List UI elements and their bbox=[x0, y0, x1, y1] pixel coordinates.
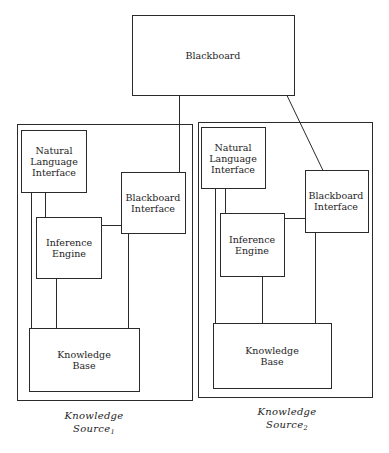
blackboard-to-source2-connector bbox=[287, 96, 323, 171]
caption-line2: Source2 bbox=[257, 418, 316, 435]
caption-subscript: 2 bbox=[303, 424, 307, 432]
label-line: Natural bbox=[209, 142, 257, 153]
label-line: Interface bbox=[30, 167, 78, 178]
caption-subscript: 1 bbox=[110, 428, 114, 436]
source2-inference-engine-label: Inference Engine bbox=[229, 234, 275, 256]
caption-line1: Knowledge bbox=[257, 405, 316, 418]
label-line: Base bbox=[57, 360, 111, 371]
source2-bb-interface-label: Blackboard Interface bbox=[309, 190, 364, 212]
source1-caption: Knowledge Source1 bbox=[64, 409, 123, 439]
caption-text: Source bbox=[266, 419, 303, 430]
label-line: Engine bbox=[46, 248, 92, 259]
caption-line2: Source1 bbox=[64, 422, 123, 439]
label-line: Engine bbox=[229, 245, 275, 256]
source1-knowledge-base-label: Knowledge Base bbox=[57, 349, 111, 371]
source2-caption: Knowledge Source2 bbox=[257, 405, 316, 435]
label-line: Blackboard bbox=[126, 192, 181, 203]
source1-inference-engine-label: Inference Engine bbox=[46, 237, 92, 259]
label-line: Interface bbox=[209, 164, 257, 175]
caption-line1: Knowledge bbox=[64, 409, 123, 422]
label-line: Inference bbox=[46, 237, 92, 248]
label-line: Knowledge bbox=[245, 345, 299, 356]
source2-nl-interface-label: Natural Language Interface bbox=[209, 142, 257, 175]
blackboard-label: Blackboard bbox=[186, 50, 241, 61]
label-line: Base bbox=[245, 356, 299, 367]
label-line: Natural bbox=[30, 145, 78, 156]
label-line: Blackboard bbox=[309, 190, 364, 201]
label-line: Interface bbox=[126, 203, 181, 214]
label-line: Inference bbox=[229, 234, 275, 245]
label-line: Knowledge bbox=[57, 349, 111, 360]
label-line: Language bbox=[30, 156, 78, 167]
source2-knowledge-base-label: Knowledge Base bbox=[245, 345, 299, 367]
label-line: Language bbox=[209, 153, 257, 164]
source1-bb-interface-label: Blackboard Interface bbox=[126, 192, 181, 214]
source1-nl-interface-label: Natural Language Interface bbox=[30, 145, 78, 178]
diagram-canvas bbox=[0, 0, 389, 453]
caption-text: Source bbox=[73, 423, 110, 434]
label-line: Interface bbox=[309, 201, 364, 212]
